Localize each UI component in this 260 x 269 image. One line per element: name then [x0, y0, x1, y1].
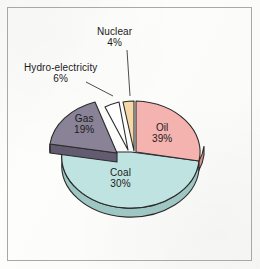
slice-label-hydro-name: Hydro-electricity — [24, 62, 97, 73]
slice-label-hydro: Hydro-electricity 6% — [24, 62, 97, 84]
slice-label-coal-percent: 30% — [110, 178, 131, 189]
slice-label-nuclear: Nuclear 4% — [97, 26, 132, 48]
slice-label-oil-name: Oil — [156, 122, 169, 133]
slice-label-gas-percent: 19% — [74, 124, 94, 135]
slice-label-nuclear-percent: 4% — [97, 37, 132, 48]
leader-line-hydro — [86, 82, 113, 96]
slice-label-gas-name: Gas — [75, 113, 94, 124]
slice-label-gas: Gas 19% — [74, 113, 94, 135]
chart-page: Hydro-electricity 6% Nuclear 4% Oil 39% … — [0, 0, 260, 269]
slice-label-oil-percent: 39% — [152, 133, 172, 144]
slice-label-hydro-percent: 6% — [24, 73, 97, 84]
leader-line-nuclear — [127, 50, 130, 96]
slice-label-coal: Coal 30% — [110, 167, 131, 189]
slice-label-oil: Oil 39% — [152, 122, 172, 144]
slice-label-nuclear-name: Nuclear — [97, 26, 132, 37]
slice-label-coal-name: Coal — [110, 167, 131, 178]
